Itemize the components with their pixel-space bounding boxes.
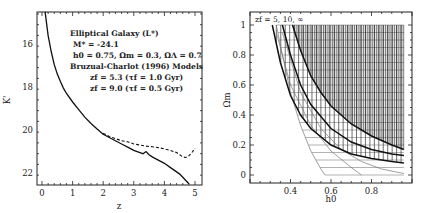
left-y-tick-labels: 16182022 <box>22 39 33 178</box>
x-tick-label: 0 <box>39 188 44 198</box>
y-tick-label: 20 <box>22 125 33 135</box>
left-y-ticks <box>37 14 202 175</box>
annotation-models: Bruzual-Charlot (1996) Models <box>70 62 203 71</box>
right-x-axis-label: h0 <box>326 194 337 204</box>
annotation-zf-values: zf = 5, 10, ∞ <box>255 15 303 24</box>
y-tick-label: 0 <box>241 170 246 180</box>
y-tick-label: 0.4 <box>232 110 246 120</box>
annotation-zf-9.0: zf = 9.0 (τf = 0.5 Gyr) <box>90 84 183 93</box>
x-tick-label: 0.8 <box>365 186 379 196</box>
y-tick-label: 18 <box>22 82 33 92</box>
left-annotations: Elliptical Galaxy (L*) M* = -24.1 h0 = 0… <box>70 29 203 93</box>
right-y-tick-labels: 00.20.40.60.81 <box>232 20 246 180</box>
annotation-galaxy-type: Elliptical Galaxy (L*) <box>70 29 159 38</box>
right-plot-omega-m-vs-h0: 0.40.60.8 00.20.40.60.81 h0 Ωm zf = 5, 1… <box>222 12 412 204</box>
annotation-zf-5.3: zf = 5.3 (τf = 1.0 Gyr) <box>90 73 183 82</box>
y-tick-label: 0.8 <box>232 50 246 60</box>
right-y-axis-label: Ωm <box>222 92 232 107</box>
y-tick-label: 1 <box>241 20 246 30</box>
y-tick-label: 16 <box>22 39 33 49</box>
left-y-axis-label: K' <box>2 96 12 105</box>
y-tick-label: 0.6 <box>232 80 246 90</box>
left-x-axis-label: z <box>117 201 122 211</box>
x-tick-label: 5 <box>192 188 197 198</box>
y-tick-label: 0.2 <box>232 140 246 150</box>
figure: 012345 16182022 z K' Elliptical Galaxy (… <box>0 0 429 213</box>
x-tick-label: 3 <box>131 188 136 198</box>
x-tick-label: 2 <box>100 188 105 198</box>
x-tick-label: 4 <box>162 188 167 198</box>
annotation-cosmology: h0 = 0.75, Ωm = 0.3, ΩΛ = 0.7 <box>73 51 202 60</box>
y-tick-label: 22 <box>22 168 33 178</box>
x-tick-label: 1 <box>70 188 75 198</box>
annotation-absolute-magnitude: M* = -24.1 <box>73 40 119 49</box>
x-tick-label: 0.4 <box>284 186 298 196</box>
left-x-tick-labels: 012345 <box>39 188 197 198</box>
left-plot-k-magnitude-vs-redshift: 012345 16182022 z K' Elliptical Galaxy (… <box>2 12 203 211</box>
